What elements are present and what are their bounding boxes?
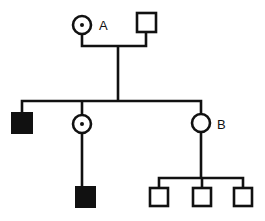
individual-b-son-1 bbox=[150, 188, 168, 206]
individual-b-son-3 bbox=[234, 188, 252, 206]
carrier-dot-icon bbox=[80, 23, 84, 27]
individual-father-unaffected-male bbox=[137, 13, 156, 32]
connector-lines bbox=[22, 32, 243, 187]
individual-a-carrier-female bbox=[73, 16, 91, 34]
individual-affected-male-gen3 bbox=[76, 187, 95, 207]
marriage-line-gen1 bbox=[82, 32, 146, 46]
individual-carrier-female-gen2 bbox=[73, 115, 91, 133]
carrier-dot-icon bbox=[80, 122, 84, 126]
individual-b-unaffected-female bbox=[192, 114, 210, 132]
pedigree-chart: A B bbox=[0, 0, 265, 221]
individual-affected-male-gen2 bbox=[12, 113, 32, 133]
label-b: B bbox=[217, 117, 226, 132]
sibship-line-gen2 bbox=[22, 101, 201, 114]
label-a: A bbox=[99, 18, 108, 33]
individual-b-son-2 bbox=[193, 188, 211, 206]
